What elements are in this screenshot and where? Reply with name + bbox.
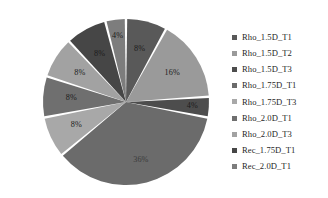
- legend-item[interactable]: Rho_1.75D_T1: [232, 78, 328, 94]
- chart-legend: Rho_1.5D_T1Rho_1.5D_T2Rho_1.5D_T3Rho_1.7…: [232, 29, 328, 175]
- legend-item[interactable]: Rec_2.0D_T1: [232, 159, 328, 175]
- legend-item-label: Rec_2.0D_T1: [242, 162, 291, 171]
- legend-item[interactable]: Rho_2.0D_T1: [232, 110, 328, 126]
- pie-slice-percent-label: 8%: [134, 44, 145, 53]
- legend-swatch-icon: [232, 164, 237, 169]
- legend-item-label: Rho_2.0D_T3: [242, 130, 292, 139]
- pie-slice-percent-label: 8%: [71, 120, 82, 129]
- pie-slice-percent-label: 8%: [66, 93, 77, 102]
- legend-swatch-icon: [232, 83, 237, 88]
- legend-item-label: Rho_1.5D_T1: [242, 33, 292, 42]
- chart-plot-area: 8%16%4%36%8%8%8%8%4%: [0, 0, 226, 198]
- legend-item[interactable]: Rho_1.5D_T1: [232, 29, 328, 45]
- pie-slice-percent-label: 16%: [165, 68, 180, 77]
- pie-slice-percent-label: 4%: [112, 31, 123, 40]
- legend-item[interactable]: Rho_2.0D_T3: [232, 126, 328, 142]
- legend-swatch-icon: [232, 116, 237, 121]
- legend-swatch-icon: [232, 99, 237, 104]
- legend-swatch-icon: [232, 148, 237, 153]
- legend-swatch-icon: [232, 132, 237, 137]
- pie-slice-percent-label: 4%: [187, 101, 198, 110]
- legend-item[interactable]: Rho_1.5D_T2: [232, 45, 328, 61]
- pie-slice-percent-label: 8%: [94, 49, 105, 58]
- pie-slice-percent-label: 36%: [133, 155, 148, 164]
- pie-chart-figure: 8%16%4%36%8%8%8%8%4% Rho_1.5D_T1Rho_1.5D…: [0, 0, 328, 198]
- legend-swatch-icon: [232, 67, 237, 72]
- legend-item[interactable]: Rho_1.75D_T3: [232, 94, 328, 110]
- legend-item-label: Rho_1.5D_T3: [242, 65, 292, 74]
- legend-item[interactable]: Rho_1.5D_T3: [232, 61, 328, 77]
- legend-swatch-icon: [232, 51, 237, 56]
- pie-slice-percent-label: 8%: [74, 68, 85, 77]
- legend-item-label: Rho_1.5D_T2: [242, 49, 292, 58]
- legend-swatch-icon: [232, 35, 237, 40]
- legend-item-label: Rho_1.75D_T1: [242, 81, 296, 90]
- pie-chart-svg: 8%16%4%36%8%8%8%8%4%: [0, 0, 226, 198]
- legend-item-label: Rho_2.0D_T1: [242, 114, 292, 123]
- legend-item-label: Rec_1.75D_T1: [242, 146, 295, 155]
- legend-item-label: Rho_1.75D_T3: [242, 98, 296, 107]
- legend-item[interactable]: Rec_1.75D_T1: [232, 142, 328, 158]
